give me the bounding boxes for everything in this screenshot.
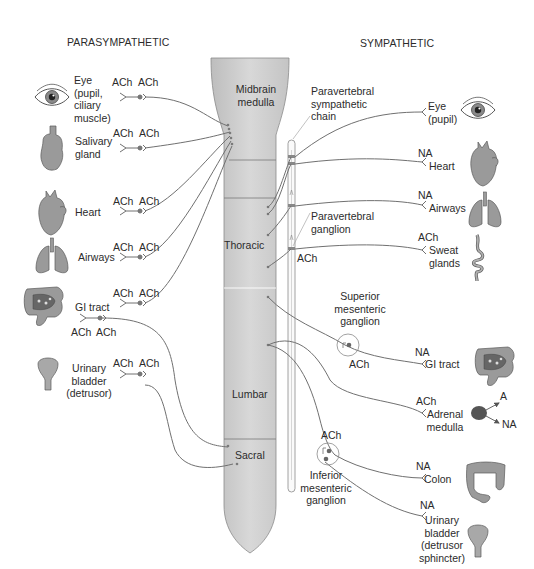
para-organ-salivary: Salivary gland: [75, 135, 112, 160]
label-line: ganglion: [311, 223, 374, 236]
parasympathetic-header: PARASYMPATHETIC: [67, 36, 169, 48]
inferior-mesenteric-ganglion: [317, 443, 339, 465]
paravertebral-ganglion-nt: ACh: [297, 252, 317, 265]
label-line: Urinary: [64, 362, 114, 375]
label-line: Eye: [74, 74, 111, 87]
para-bladder-pre-nt: ACh: [113, 357, 133, 370]
symp-organ-adrenal: Adrenal medulla: [424, 408, 466, 433]
symp-organ-sweat: Sweat glands: [429, 244, 460, 269]
superior-mesenteric-ganglion: [337, 334, 359, 356]
para-eye-pre-nt: ACh: [112, 76, 132, 89]
cord-label-midbrain-line2: medulla: [225, 96, 287, 109]
label-line: gland: [75, 148, 112, 161]
label-line: Inferior: [296, 469, 356, 482]
heart-icon: [39, 190, 66, 235]
para-organ-heart: Heart: [75, 206, 101, 219]
salivary-gland-icon: [41, 126, 63, 170]
symp-adrenal-nt: ACh: [416, 395, 436, 408]
para-salivary-post-nt: ACh: [139, 127, 159, 140]
label-line: bladder: [64, 375, 114, 388]
label-line: (detrusor: [416, 539, 468, 552]
sympathetic-header: SYMPATHETIC: [360, 37, 434, 49]
lungs-icon: [469, 192, 501, 227]
paravertebral-chain-label: Paravertebral sympathetic chain: [311, 85, 374, 123]
para-gi-sacral-pre-nt: ACh: [71, 326, 91, 339]
bladder-icon: [468, 525, 488, 557]
label-line: Superior: [330, 290, 390, 303]
label-line: ganglion: [330, 315, 390, 328]
label-line: Adrenal: [424, 408, 466, 421]
label-line: Paravertebral: [311, 210, 374, 223]
eye-icon: [35, 84, 69, 105]
symp-colon-nt: NA: [416, 460, 431, 473]
label-line: mesenteric: [330, 303, 390, 316]
para-bladder-post-nt: ACh: [139, 357, 159, 370]
adrenal-icon: [471, 403, 499, 423]
label-line: Urinary: [416, 514, 468, 527]
para-gi-post-nt: ACh: [139, 287, 159, 300]
label-line: chain: [311, 110, 374, 123]
pv-ganglion-leader-line: [293, 213, 310, 246]
bladder-icon: [38, 358, 58, 390]
sympathetic-chain: [288, 116, 310, 492]
label-line: ganglion: [296, 494, 356, 507]
adrenal-output-a: A: [500, 390, 507, 403]
para-eye-post-nt: ACh: [138, 76, 158, 89]
label-line: Eye: [428, 100, 457, 113]
para-organ-bladder: Urinary bladder (detrusor): [64, 362, 114, 400]
superior-mesenteric-label: Superior mesenteric ganglion: [330, 290, 390, 328]
chain-leader-line: [293, 116, 310, 139]
symp-organ-colon: Colon: [424, 473, 451, 486]
para-gi-sacral-post-nt: ACh: [96, 326, 116, 339]
sympathetic-endings: [422, 108, 426, 520]
label-line: bladder: [416, 527, 468, 540]
intestine-icon: [24, 287, 63, 326]
para-gi-pre-nt: ACh: [113, 287, 133, 300]
lungs-icon: [36, 238, 68, 273]
colon-icon: [467, 462, 505, 503]
label-line: muscle): [74, 112, 111, 125]
para-heart-post-nt: ACh: [139, 195, 159, 208]
symp-gi-nt: NA: [415, 346, 430, 359]
para-airways-pre-nt: ACh: [113, 241, 133, 254]
label-line: sphincter): [416, 552, 468, 565]
sweat-gland-icon: [474, 235, 483, 281]
symp-organ-bladder: Urinary bladder (detrusor sphincter): [416, 514, 468, 564]
label-line: (pupil,: [74, 87, 111, 100]
symp-organ-eye: Eye (pupil): [428, 100, 457, 125]
cord-label-sacral: Sacral: [235, 449, 265, 462]
symp-bladder-nt: NA: [420, 499, 435, 512]
para-salivary-pre-nt: ACh: [113, 127, 133, 140]
label-line: Paravertebral: [311, 85, 374, 98]
inferior-mesenteric-nt: ACh: [321, 429, 341, 442]
label-line: Sweat: [429, 244, 460, 257]
para-organ-airways: Airways: [78, 251, 115, 264]
symp-organ-gi-tract: GI tract: [425, 358, 459, 371]
label-line: mesenteric: [296, 482, 356, 495]
symp-sweat-nt: ACh: [418, 231, 438, 244]
symp-heart-nt: NA: [418, 147, 433, 160]
symp-airways-nt: NA: [418, 189, 433, 202]
symp-organ-heart: Heart: [429, 160, 455, 173]
autonomic-nervous-system-diagram: PARASYMPATHETIC SYMPATHETIC Midbrain med…: [0, 0, 534, 569]
label-line: (pupil): [428, 113, 457, 126]
adrenal-output-na: NA: [502, 418, 517, 431]
label-line: medulla: [424, 421, 466, 434]
inferior-mesenteric-label: Inferior mesenteric ganglion: [296, 469, 356, 507]
label-line: (detrusor): [64, 387, 114, 400]
heart-icon: [471, 141, 498, 186]
label-line: glands: [429, 257, 460, 270]
superior-mesenteric-nt: ACh: [349, 358, 369, 371]
label-line: sympathetic: [311, 98, 374, 111]
cord-label-midbrain: Midbrain medulla: [225, 83, 287, 108]
symp-organ-airways: Airways: [429, 202, 466, 215]
para-organ-gi-tract: GI tract: [75, 301, 109, 314]
parasympathetic-nerves: [102, 97, 233, 467]
para-airways-post-nt: ACh: [139, 241, 159, 254]
cord-label-lumbar: Lumbar: [232, 388, 268, 401]
paravertebral-ganglion-label: Paravertebral ganglion: [311, 210, 374, 235]
label-line: ciliary: [74, 99, 111, 112]
cord-label-thoracic: Thoracic: [224, 239, 264, 252]
eye-icon: [461, 97, 495, 118]
cord-label-midbrain-line1: Midbrain: [225, 83, 287, 96]
